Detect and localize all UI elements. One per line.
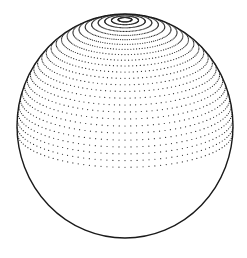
- background: [0, 0, 247, 258]
- sphere-diagram: [0, 0, 247, 258]
- sphere-canvas: [0, 0, 247, 258]
